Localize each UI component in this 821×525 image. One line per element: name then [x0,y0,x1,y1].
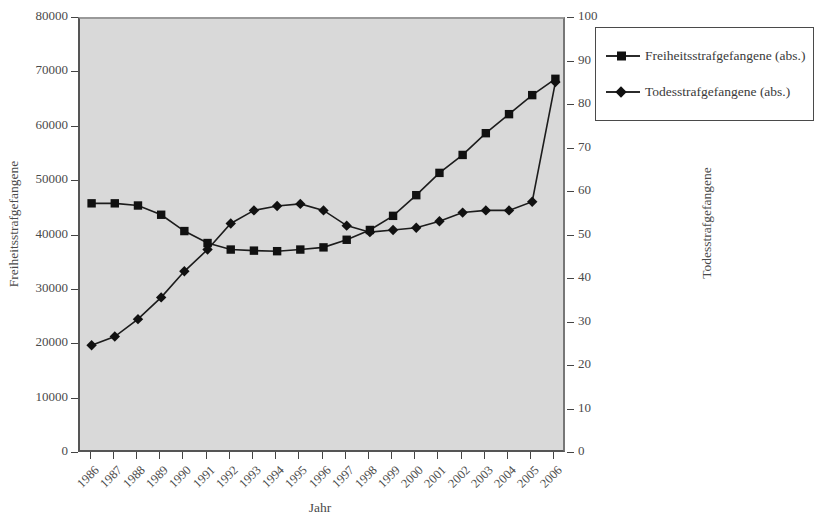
diamond-marker-icon [86,340,96,350]
y-tick-left [71,180,78,181]
x-tick [368,452,369,459]
diamond-marker-icon [615,86,626,97]
x-tick [182,452,183,459]
y-tick-label-right: 80 [578,95,591,111]
x-tick [414,452,415,459]
diamond-marker-icon [318,205,328,215]
square-marker-icon [157,211,165,219]
y-tick-label-left: 40000 [2,226,68,242]
y-tick-label-right: 100 [578,8,598,24]
x-tick [298,452,299,459]
square-marker-icon [273,247,281,255]
y-tick-label-right: 70 [578,139,591,155]
y-tick-label-right: 30 [578,313,591,329]
legend-label-todesstrafgefangene: Todesstrafgefangene (abs.) [645,84,790,100]
square-marker-icon [342,236,350,244]
diamond-marker-icon [527,197,537,207]
square-marker-icon [412,191,420,199]
y-tick-right [567,452,574,453]
x-tick [136,452,137,459]
square-marker-icon [389,212,397,220]
x-tick [113,452,114,459]
square-marker-icon [111,199,119,207]
chart-legend: Freiheitsstrafgefangene (abs.) Todesstra… [595,27,814,121]
y-tick-right [567,409,574,410]
y-tick-label-left: 70000 [2,62,68,78]
chart-figure: Freiheitsstrafgefangene Todesstrafgefang… [0,0,821,525]
diamond-marker-icon [249,205,259,215]
y-tick-label-right: 10 [578,400,591,416]
y-tick-left [71,398,78,399]
y-tick-label-right: 60 [578,182,591,198]
y-tick-left [71,343,78,344]
legend-label-freiheitsstrafgefangene: Freiheitsstrafgefangene (abs.) [645,48,805,64]
x-tick [345,452,346,459]
square-marker-icon [505,110,513,118]
square-marker-icon [528,91,536,99]
x-tick [229,452,230,459]
y-axis-title-right: Todesstrafgefangene [699,123,715,323]
x-tick [507,452,508,459]
square-marker-icon [617,52,626,61]
y-tick-right [567,17,574,18]
y-tick-right [567,365,574,366]
diamond-marker-icon [295,199,305,209]
y-tick-label-left: 80000 [2,8,68,24]
x-tick [391,452,392,459]
series-markers-freiheitsstrafgefangene [87,75,559,256]
y-tick-left [71,71,78,72]
x-tick [275,452,276,459]
square-marker-icon [134,201,142,209]
diamond-marker-icon [411,223,421,233]
y-tick-label-right: 0 [578,443,585,459]
square-marker-icon [435,169,443,177]
y-tick-label-left: 20000 [2,334,68,350]
square-marker-icon [180,227,188,235]
x-tick [159,452,160,459]
x-axis-title: Jahr [280,500,360,516]
square-marker-icon [250,246,258,254]
square-marker-icon [296,245,304,253]
plot-area [78,17,565,452]
square-marker-icon [87,199,95,207]
y-tick-label-right: 90 [578,52,591,68]
y-tick-label-left: 10000 [2,389,68,405]
series-line-freiheitsstrafgefangene [92,79,556,251]
legend-item-freiheitsstrafgefangene: Freiheitsstrafgefangene (abs.) [606,48,805,64]
y-tick-label-right: 40 [578,269,591,285]
x-tick [461,452,462,459]
y-tick-left [71,289,78,290]
diamond-marker-icon [388,225,398,235]
y-tick-label-right: 20 [578,356,591,372]
x-tick [322,452,323,459]
x-tick [553,452,554,459]
y-tick-label-right: 50 [578,226,591,242]
y-tick-right [567,148,574,149]
legend-item-todesstrafgefangene: Todesstrafgefangene (abs.) [606,84,790,100]
y-tick-right [567,61,574,62]
square-marker-icon [319,243,327,251]
square-marker-icon [482,129,490,137]
y-tick-label-left: 50000 [2,171,68,187]
y-tick-label-left: 30000 [2,280,68,296]
x-tick [206,452,207,459]
y-tick-left [71,126,78,127]
y-tick-left [71,235,78,236]
legend-line-diamond-icon [606,91,640,93]
x-tick [437,452,438,459]
diamond-marker-icon [504,205,514,215]
x-tick [90,452,91,459]
y-tick-right [567,322,574,323]
diamond-marker-icon [272,201,282,211]
diamond-marker-icon [481,205,491,215]
square-marker-icon [227,245,235,253]
series-canvas [80,19,567,454]
x-tick [530,452,531,459]
y-tick-right [567,191,574,192]
y-tick-left [71,17,78,18]
x-tick [484,452,485,459]
diamond-marker-icon [457,207,467,217]
square-marker-icon [458,151,466,159]
y-tick-right [567,235,574,236]
y-tick-label-left: 0 [2,443,68,459]
